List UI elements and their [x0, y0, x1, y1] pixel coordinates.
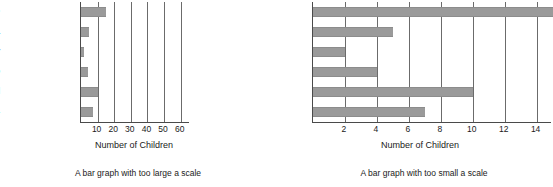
gridline: [377, 2, 378, 122]
x-tick-label: 4: [374, 124, 379, 134]
bar: [81, 7, 106, 17]
x-tick-label: 10: [92, 124, 101, 134]
left-chart-plot-area: [80, 2, 189, 123]
bar: [81, 47, 84, 57]
left-chart-caption: A bar graph with too large a scale: [75, 168, 201, 178]
x-tick-label: 14: [531, 124, 540, 134]
gridline: [473, 2, 474, 122]
gridline: [345, 2, 346, 122]
bar: [81, 87, 98, 97]
gridline: [181, 2, 182, 122]
left-chart-x-axis-title: Number of Children: [95, 140, 173, 150]
x-tick-label: 60: [175, 124, 184, 134]
x-tick-label: 6: [405, 124, 410, 134]
gridline: [131, 2, 132, 122]
right-chart-x-axis-title: Number of Children: [381, 140, 459, 150]
gridline: [147, 2, 148, 122]
gridline: [409, 2, 410, 122]
gridline: [114, 2, 115, 122]
bar: [313, 87, 473, 97]
bar: [313, 67, 377, 77]
bar: [313, 7, 553, 17]
x-tick-label: 2: [342, 124, 347, 134]
gridline: [505, 2, 506, 122]
x-tick-label: 40: [142, 124, 151, 134]
gridline: [441, 2, 442, 122]
gridline: [164, 2, 165, 122]
bar: [81, 107, 93, 117]
gridline: [537, 2, 538, 122]
x-tick-label: 20: [108, 124, 117, 134]
x-tick-label: 12: [499, 124, 508, 134]
bar: [313, 107, 425, 117]
gridline: [98, 2, 99, 122]
bar: [313, 27, 393, 37]
bar: [313, 47, 345, 57]
x-tick-label: 30: [125, 124, 134, 134]
right-chart-plot-area: [312, 2, 551, 123]
bar: [81, 67, 88, 77]
x-tick-label: 50: [158, 124, 167, 134]
right-chart-caption: A bar graph with too small a scale: [360, 168, 487, 178]
x-tick-label: 8: [437, 124, 442, 134]
x-tick-label: 10: [467, 124, 476, 134]
bar: [81, 27, 89, 37]
